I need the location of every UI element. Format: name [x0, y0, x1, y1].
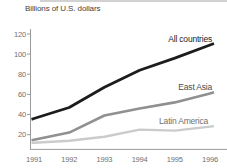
- series-label-all-countries: All countries: [168, 34, 212, 44]
- series-label-latin-america: Latin America: [159, 116, 208, 126]
- y-axis-ticks: [27, 34, 31, 135]
- chart-figure: Billions of U.S. dollars 20406080100120 …: [0, 0, 227, 168]
- series-label-east-asia: East Asia: [178, 82, 212, 92]
